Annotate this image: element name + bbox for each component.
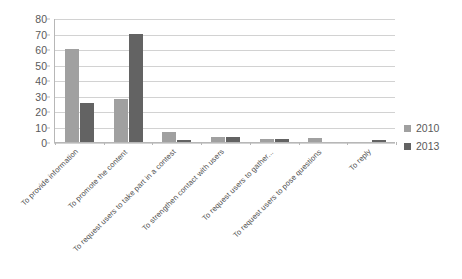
bar[interactable] xyxy=(80,103,94,142)
y-tick-label-80: 80 xyxy=(35,14,47,24)
bar[interactable] xyxy=(211,137,225,142)
bar[interactable] xyxy=(177,140,191,142)
bar[interactable] xyxy=(275,139,289,142)
bar-group xyxy=(347,19,396,142)
x-tick-mark xyxy=(347,142,348,145)
y-tick-mark-50 xyxy=(47,65,50,66)
x-tick-mark xyxy=(299,142,300,145)
bar-group xyxy=(299,19,348,142)
y-tick-label-70: 70 xyxy=(35,30,47,40)
x-tick-mark xyxy=(152,142,153,145)
y-tick-label-30: 30 xyxy=(35,92,47,102)
y-tick-mark-0 xyxy=(47,143,50,144)
bar-group xyxy=(104,19,153,142)
y-tick-label-40: 40 xyxy=(35,76,47,86)
y-axis: 01020304050607080 xyxy=(26,19,50,143)
x-axis-label: To reply xyxy=(348,148,373,173)
legend-item-2010[interactable]: 2010 xyxy=(404,120,460,136)
y-tick-mark-70 xyxy=(47,34,50,35)
bar-group xyxy=(55,19,104,142)
chart-legend: 2010 2013 xyxy=(404,120,460,156)
x-tick-mark xyxy=(201,142,202,145)
x-axis-line xyxy=(54,142,395,143)
bar[interactable] xyxy=(114,99,128,142)
y-tick-mark-60 xyxy=(47,50,50,51)
legend-item-2013[interactable]: 2013 xyxy=(404,138,460,154)
x-axis-label: To strengthen contact with users xyxy=(141,148,226,233)
y-tick-mark-20 xyxy=(47,112,50,113)
bar-group xyxy=(201,19,250,142)
y-tick-mark-10 xyxy=(47,127,50,128)
legend-swatch-icon-2010 xyxy=(404,125,411,132)
bar-group xyxy=(250,19,299,142)
x-axis-label: To request users to pose questions xyxy=(232,148,323,239)
bar[interactable] xyxy=(65,49,79,142)
x-axis-labels: To provide informationTo promote the con… xyxy=(0,146,462,266)
bar[interactable] xyxy=(308,138,322,142)
legend-label-2010: 2010 xyxy=(416,123,439,134)
y-tick-mark-30 xyxy=(47,96,50,97)
bar[interactable] xyxy=(129,34,143,143)
bar[interactable] xyxy=(162,132,176,142)
bar[interactable] xyxy=(226,137,240,142)
bar[interactable] xyxy=(260,139,274,142)
bar[interactable] xyxy=(372,140,386,142)
x-tick-mark xyxy=(104,142,105,145)
y-tick-label-10: 10 xyxy=(35,123,47,133)
bar-chart: 01020304050607080 To provide information… xyxy=(0,0,462,279)
x-tick-mark xyxy=(396,142,397,145)
legend-label-2013: 2013 xyxy=(416,141,439,152)
x-tick-mark xyxy=(55,142,56,145)
gridline-0 xyxy=(54,143,395,144)
x-axis-label: To request users to take part in a conte… xyxy=(72,148,178,254)
legend-swatch-icon-2013 xyxy=(404,143,411,150)
y-tick-label-60: 60 xyxy=(35,45,47,55)
y-tick-label-20: 20 xyxy=(35,107,47,117)
bars-layer xyxy=(55,19,395,142)
x-tick-mark xyxy=(250,142,251,145)
y-tick-mark-80 xyxy=(47,19,50,20)
y-tick-label-50: 50 xyxy=(35,61,47,71)
y-tick-mark-40 xyxy=(47,81,50,82)
bar-group xyxy=(152,19,201,142)
plot-area xyxy=(54,19,395,143)
